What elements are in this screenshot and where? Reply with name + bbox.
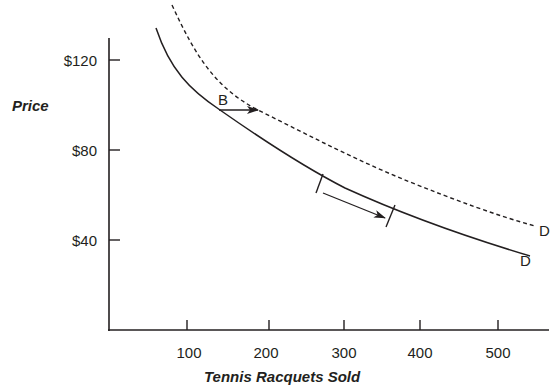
demand-label-original: D [520,252,531,269]
point-b-label: B [218,91,228,108]
y-tick-label-80: $80 [72,142,97,159]
x-tick-label-300: 300 [331,344,356,361]
curve-tick-mark-1 [316,174,323,193]
x-tick-label-500: 500 [485,344,510,361]
x-tick-label-200: 200 [253,344,278,361]
x-axis-title: Tennis Racquets Sold [204,368,361,385]
demand-label-shifted: D [539,222,550,239]
y-axis-title: Price [12,97,49,114]
movement-arrow [323,193,385,218]
y-tick-label-120: $120 [64,52,97,69]
x-tick-label-100: 100 [176,344,201,361]
demand-curve-shifted [172,5,535,226]
x-tick-label-400: 400 [407,344,432,361]
y-tick-label-40: $40 [72,232,97,249]
demand-curve-original [156,28,530,256]
demand-chart: $120 $80 $40 100 200 300 400 500 Price T… [0,0,556,392]
